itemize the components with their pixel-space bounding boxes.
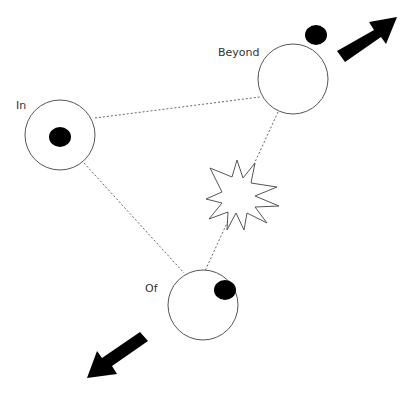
node-of-dot bbox=[214, 280, 236, 300]
node-in-dot bbox=[49, 127, 71, 147]
node-beyond bbox=[258, 44, 328, 114]
arrow-down-left-icon bbox=[87, 332, 148, 378]
explosion-icon bbox=[206, 160, 279, 230]
node-beyond-label: Beyond bbox=[218, 46, 260, 59]
connection-in-beyond bbox=[95, 97, 260, 118]
arrow-up-right-icon bbox=[337, 17, 397, 62]
node-in-label: In bbox=[16, 99, 26, 112]
node-beyond-dot bbox=[305, 25, 327, 45]
diagram-canvas: In Beyond Of bbox=[0, 0, 412, 397]
connection-in-of bbox=[84, 163, 184, 273]
node-of-label: Of bbox=[145, 282, 159, 295]
